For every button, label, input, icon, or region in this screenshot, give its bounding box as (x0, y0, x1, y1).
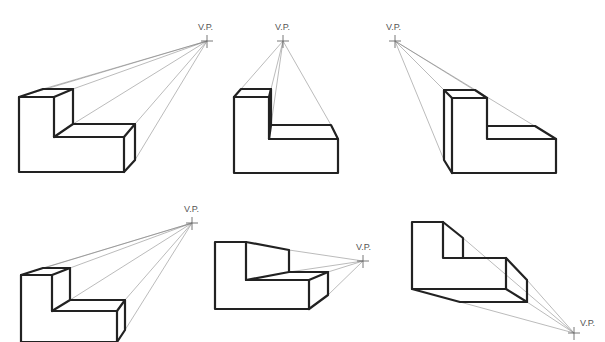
figure-3: V.P. (386, 22, 556, 173)
vp-label: V.P. (356, 242, 371, 252)
projection-rays (395, 41, 556, 160)
figure-6: V.P. (412, 222, 595, 340)
figure-5: V.P. (215, 242, 371, 309)
figure-4: V.P. (21, 204, 199, 342)
vp-label: V.P. (198, 22, 213, 32)
vp-label: V.P. (580, 318, 595, 328)
perspective-diagram: V.P. V.P. (0, 0, 605, 342)
l-block (21, 268, 125, 342)
projection-rays (21, 223, 192, 330)
projection-rays (234, 41, 331, 125)
figure-1: V.P. (19, 22, 213, 172)
l-block (444, 90, 556, 173)
l-block (234, 89, 338, 173)
projection-rays (19, 41, 207, 160)
vp-cross-icon (568, 327, 580, 340)
vp-label: V.P. (184, 204, 199, 214)
l-block (412, 222, 527, 302)
projection-rays (460, 238, 574, 333)
l-block (215, 242, 328, 309)
vp-label: V.P. (386, 22, 401, 32)
figure-2: V.P. (234, 22, 338, 173)
l-block (19, 89, 135, 172)
vp-label: V.P. (275, 22, 290, 32)
